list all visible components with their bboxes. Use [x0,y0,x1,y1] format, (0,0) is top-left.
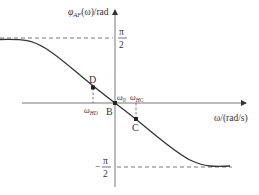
omega-0-label: ω0 [117,93,126,103]
omega-hd-label: ωHD [84,106,98,116]
upper-asymptote-label: π 2 [118,27,127,50]
point-d-marker [91,86,95,90]
point-b-label: B [106,106,113,117]
svg-text:π: π [103,156,108,166]
point-c-marker [134,117,138,121]
phase-frequency-diagram: φAF(ω)/rad ω/(rad/s) π 2 − π 2 D B C ωHD… [0,0,259,195]
omega-hc-label: ωHC [130,93,144,103]
svg-text:π: π [119,27,124,37]
svg-text:2: 2 [119,40,124,50]
svg-text:2: 2 [103,169,108,179]
point-c-label: C [132,122,139,133]
svg-text:−: − [95,162,100,172]
lower-asymptote-label: − π 2 [95,156,111,179]
point-d-label: D [89,74,96,85]
y-axis-label: φAF(ω)/rad [68,7,109,18]
x-axis-label: ω/(rad/s) [214,113,248,124]
